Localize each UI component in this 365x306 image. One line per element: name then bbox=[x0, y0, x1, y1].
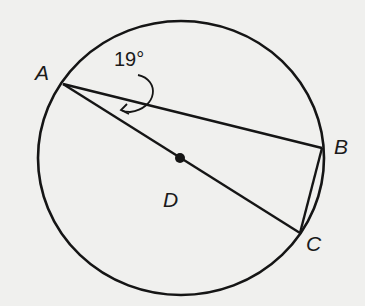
label-a: A bbox=[35, 62, 49, 83]
label-b: B bbox=[334, 136, 348, 157]
diagram-canvas bbox=[0, 0, 365, 306]
chord-ab bbox=[63, 84, 322, 148]
arrowhead-icon bbox=[121, 104, 129, 114]
label-c: C bbox=[306, 233, 321, 254]
geometry-diagram: A B C D 19° bbox=[0, 0, 365, 306]
label-d: D bbox=[163, 189, 178, 210]
angle-measure: 19° bbox=[114, 49, 144, 69]
center-point-d bbox=[175, 153, 185, 163]
